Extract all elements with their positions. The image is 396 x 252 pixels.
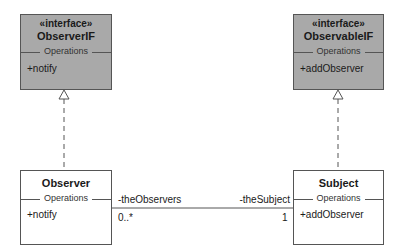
- section-label: Operations: [312, 193, 364, 203]
- section-label: Operations: [40, 193, 92, 203]
- section-divider: Operations: [21, 199, 111, 200]
- realization-arrowhead-icon: [59, 90, 69, 99]
- operation-add-observer: +addObserver: [300, 209, 364, 220]
- right-multiplicity-label: 1: [282, 212, 288, 223]
- observer-if-box[interactable]: «interface» ObserverIF Operations +notif…: [20, 14, 112, 90]
- section-label: Operations: [40, 46, 92, 56]
- operation-add-observer: +addObserver: [300, 63, 364, 74]
- realization-arrowhead-icon: [333, 90, 343, 99]
- interface-name: ObservableIF: [294, 30, 383, 42]
- stereotype-label: «interface»: [294, 18, 383, 29]
- observable-if-box[interactable]: «interface» ObservableIF Operations +add…: [293, 14, 384, 90]
- left-role-label: -theObservers: [118, 194, 181, 205]
- section-divider: Operations: [294, 199, 383, 200]
- left-multiplicity-label: 0..*: [118, 212, 133, 223]
- subject-class-box[interactable]: Subject Operations +addObserver: [293, 170, 384, 245]
- observer-class-box[interactable]: Observer Operations +notify: [20, 170, 112, 245]
- operation-notify: +notify: [27, 63, 57, 74]
- class-name: Subject: [294, 177, 383, 189]
- section-label: Operations: [312, 46, 364, 56]
- section-divider: Operations: [21, 52, 111, 53]
- section-divider: Operations: [294, 52, 383, 53]
- interface-name: ObserverIF: [21, 30, 111, 42]
- stereotype-label: «interface»: [21, 18, 111, 29]
- right-role-label: -theSubject: [239, 194, 290, 205]
- operation-notify: +notify: [27, 209, 57, 220]
- class-name: Observer: [21, 177, 111, 189]
